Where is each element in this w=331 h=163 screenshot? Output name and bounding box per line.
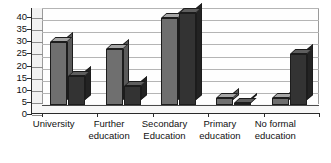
x-axis-tick	[319, 113, 320, 117]
bar-group	[106, 8, 147, 105]
bar-series-2	[234, 103, 251, 105]
bar-series-1	[50, 42, 67, 105]
category-label-line: No formal	[248, 118, 303, 130]
x-axis-tick	[97, 113, 98, 117]
bar-group	[216, 8, 257, 105]
category-label-line: education	[248, 130, 303, 142]
category-label-line: education	[81, 130, 136, 142]
x-axis-labels: UniversityFurthereducationSecondaryEduca…	[32, 118, 320, 160]
x-axis-category-label: SecondaryEducation	[137, 118, 192, 141]
x-axis-tick	[153, 113, 154, 117]
y-axis-tick	[27, 29, 32, 30]
y-axis-tick	[27, 90, 32, 91]
bar-series-2	[124, 86, 141, 105]
y-axis-tick	[27, 66, 32, 67]
y-axis-tick	[27, 78, 32, 79]
x-axis	[32, 113, 320, 114]
y-axis-tick-label: 30	[16, 37, 27, 47]
category-label-line: Primary	[192, 118, 247, 130]
bar-series-1	[106, 49, 123, 105]
bar-series-1	[161, 18, 178, 105]
y-axis-tick-label: 40	[16, 12, 27, 22]
x-axis-category-label: Furthereducation	[81, 118, 136, 141]
category-label-line: Education	[137, 130, 192, 142]
bar-series-2	[290, 54, 307, 105]
plot-area	[32, 8, 319, 114]
category-label-line: Further	[81, 118, 136, 130]
bar-series-1	[272, 98, 289, 105]
y-axis-tick-label: 15	[16, 73, 27, 83]
x-axis-tick	[208, 113, 209, 117]
gridline	[42, 105, 319, 106]
x-axis-category-label: No formaleducation	[248, 118, 303, 141]
x-axis-category-label: University	[26, 118, 81, 130]
category-label-line: education	[192, 130, 247, 142]
category-label-line: University	[26, 118, 81, 130]
y-axis-tick-label: 5	[22, 97, 27, 107]
x-axis-tick	[42, 113, 43, 117]
x-axis-category-label: Primaryeducation	[192, 118, 247, 141]
bar-series-2	[68, 76, 85, 105]
x-axis-tick	[264, 113, 265, 117]
y-axis: 0510152025303540	[31, 8, 32, 115]
y-axis-tick-label: 25	[16, 49, 27, 59]
bar-chart: 0510152025303540 UniversityFurthereducat…	[0, 0, 331, 163]
y-axis-tick	[27, 41, 32, 42]
y-axis-tick-label: 10	[16, 85, 27, 95]
bars-container	[42, 8, 319, 105]
y-axis-tick-label: 20	[16, 61, 27, 71]
bar-group	[161, 8, 202, 105]
bar-series-1	[216, 98, 233, 105]
bar-group	[272, 8, 313, 105]
bar-group	[50, 8, 91, 105]
category-label-line: Secondary	[137, 118, 192, 130]
bar-series-2	[179, 13, 196, 105]
y-axis-tick	[27, 17, 32, 18]
y-axis-tick	[27, 102, 32, 103]
y-axis-tick	[27, 53, 32, 54]
y-axis-tick-label: 35	[16, 24, 27, 34]
y-axis-tick	[27, 114, 32, 115]
